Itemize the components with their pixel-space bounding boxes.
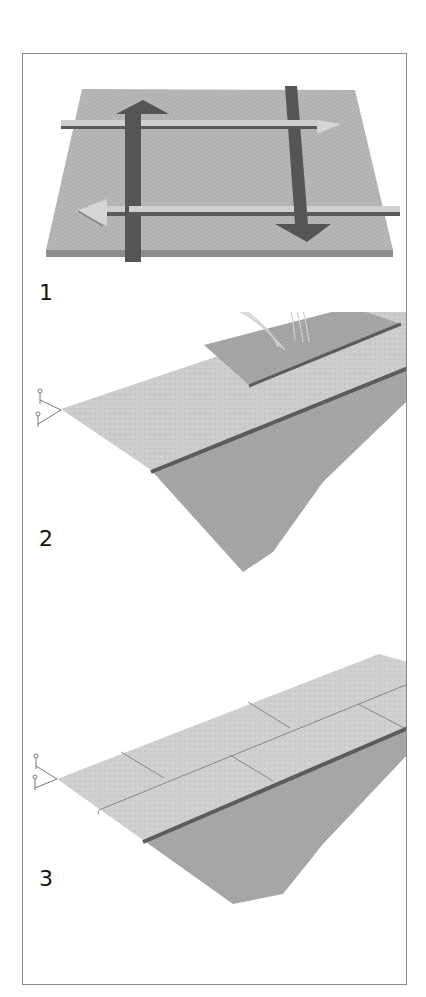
step-1-panel: 1	[23, 54, 407, 294]
step-number-3: 3	[39, 866, 53, 891]
step-2-illustration	[23, 312, 407, 612]
sheet	[46, 89, 393, 250]
step-number-1: 1	[39, 280, 53, 305]
step-2-panel: 2	[23, 312, 407, 612]
step-3-illustration	[23, 654, 407, 984]
step-3-panel: 3	[23, 654, 407, 984]
figure-frame: 1	[22, 53, 407, 985]
sheet-edge	[46, 250, 393, 257]
step-1-illustration	[23, 54, 407, 294]
step-number-2: 2	[39, 526, 53, 551]
nail-icon	[33, 754, 57, 790]
nail-icon	[36, 389, 61, 427]
